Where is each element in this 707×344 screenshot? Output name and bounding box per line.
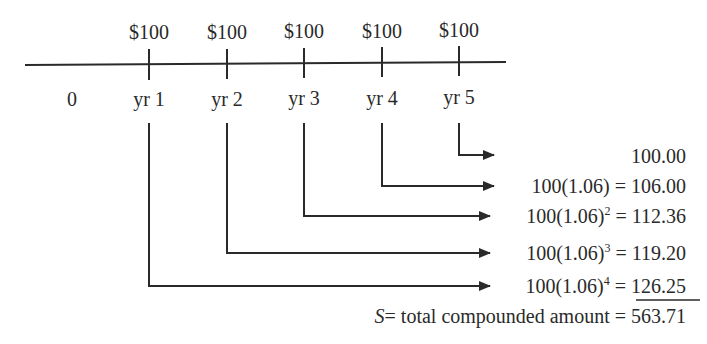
row-value: 112.36 xyxy=(632,205,686,227)
row-expression: 100(1.06) xyxy=(526,242,604,264)
arrow-yr2 xyxy=(227,123,490,253)
row-value: 106.00 xyxy=(631,175,686,197)
row-equals: = xyxy=(610,275,631,297)
year-label-yr2: yr 2 xyxy=(211,88,243,110)
compound-interest-diagram: $100 $100 $100 $100 $100 0 yr 1 yr 2 yr … xyxy=(0,0,707,344)
payment-amount-yr4: $100 xyxy=(362,20,402,42)
row-value: 126.25 xyxy=(631,275,686,297)
year-label-yr5: yr 5 xyxy=(443,86,475,108)
total-label: = total compounded amount = xyxy=(385,305,631,327)
compound-row-yr5: 100.00 xyxy=(631,145,686,167)
year-label-yr1: yr 1 xyxy=(133,88,165,110)
compound-row-yr2: 100(1.06)3 = 119.20 xyxy=(526,242,686,264)
compound-row-yr4: 100(1.06) = 106.00 xyxy=(531,175,686,197)
total-compounded-amount: S= total compounded amount = 563.71 xyxy=(375,305,686,327)
total-value: 563.71 xyxy=(631,305,686,327)
row-expression: 100(1.06) xyxy=(531,175,609,197)
year-label-0: 0 xyxy=(67,88,77,110)
arrow-yr5 xyxy=(459,123,494,155)
total-symbol: S xyxy=(375,305,385,327)
compound-row-yr3: 100(1.06)2 = 112.36 xyxy=(526,205,686,227)
timeline-axis xyxy=(25,62,506,65)
row-equals: = xyxy=(610,242,631,264)
arrow-yr3 xyxy=(304,123,490,216)
year-label-yr4: yr 4 xyxy=(366,87,398,109)
payment-amount-yr1: $100 xyxy=(129,21,169,43)
row-value: 119.20 xyxy=(632,242,686,264)
payment-amount-yr2: $100 xyxy=(207,21,247,43)
payment-amount-yr3: $100 xyxy=(284,20,324,42)
row-value: 100.00 xyxy=(631,145,686,167)
row-expression: 100(1.06) xyxy=(525,275,603,297)
row-equals: = xyxy=(610,175,631,197)
payment-amount-yr5: $100 xyxy=(439,19,479,41)
year-label-yr3: yr 3 xyxy=(288,87,320,109)
compound-row-yr1: 100(1.06)4 = 126.25 xyxy=(525,275,686,297)
row-equals: = xyxy=(610,205,631,227)
arrow-yr1 xyxy=(149,123,490,286)
row-expression: 100(1.06) xyxy=(526,205,604,227)
